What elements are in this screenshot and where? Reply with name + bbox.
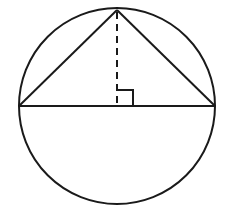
triangle-left-side (19, 10, 117, 106)
right-angle-marker (117, 90, 133, 106)
inscribed-triangle-diagram (0, 0, 230, 207)
triangle-right-side (117, 10, 215, 106)
